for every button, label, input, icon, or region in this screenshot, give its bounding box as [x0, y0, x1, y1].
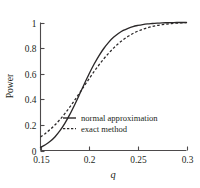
- y-tick-label: 0.4: [25, 95, 37, 105]
- x-axis-title: q: [110, 169, 115, 180]
- x-tick-label: 0.3: [182, 155, 194, 165]
- x-tick-label: 0.2: [84, 155, 96, 165]
- legend-label: exact method: [81, 124, 128, 134]
- y-tick-label: 0.6: [25, 70, 37, 80]
- y-tick-label: 0.8: [25, 44, 37, 54]
- chart-canvas: 00.20.40.60.81 0.150.20.250.3 Power q no…: [0, 0, 200, 188]
- x-axis-ticks: 0.150.20.250.3: [33, 147, 193, 165]
- power-curve-figure: 00.20.40.60.81 0.150.20.250.3 Power q no…: [0, 0, 200, 188]
- y-axis-title: Power: [4, 73, 15, 98]
- x-tick-label: 0.25: [130, 155, 147, 165]
- x-tick-label: 0.15: [33, 155, 50, 165]
- y-tick-label: 1: [32, 19, 37, 29]
- y-tick-label: 0.2: [25, 121, 37, 131]
- chart-legend: normal approximationexact method: [63, 113, 158, 134]
- legend-label: normal approximation: [81, 113, 158, 123]
